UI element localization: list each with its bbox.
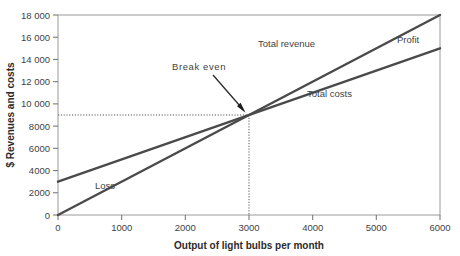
total-revenue-label: Total revenue — [258, 38, 315, 49]
profit-region-label: Profit — [397, 34, 420, 45]
total-costs-label: Total costs — [307, 88, 352, 99]
y-tick-label-2000: 2000 — [29, 187, 50, 198]
x-tick-label-1000: 1000 — [111, 222, 132, 233]
y-tick-label-8000: 8000 — [29, 121, 50, 132]
y-tick-label-4000: 4000 — [29, 165, 50, 176]
x-tick-label-6000: 6000 — [429, 222, 450, 233]
x-tick-label-2000: 2000 — [175, 222, 196, 233]
x-tick-label-3000: 3000 — [238, 222, 259, 233]
y-tick-label-14000: 14 000 — [21, 54, 50, 65]
x-axis-ticks — [58, 215, 440, 220]
total-costs-line — [58, 48, 440, 181]
break-even-chart: 18 000 16 000 14 000 12 000 10 000 8000 … — [0, 0, 460, 256]
break-even-label: Break even — [172, 61, 226, 72]
y-tick-label-16000: 16 000 — [21, 32, 50, 43]
x-axis-title: Output of light bulbs per month — [174, 240, 324, 251]
y-axis-ticks — [53, 15, 58, 215]
chart-canvas: 18 000 16 000 14 000 12 000 10 000 8000 … — [0, 0, 460, 256]
y-axis-title: $ Revenues and costs — [5, 62, 16, 167]
y-tick-label-0: 0 — [45, 210, 50, 221]
y-tick-label-10000: 10 000 — [21, 98, 50, 109]
y-tick-label-18000: 18 000 — [21, 10, 50, 21]
loss-region-label: Loss — [95, 180, 115, 191]
y-tick-label-6000: 6000 — [29, 143, 50, 154]
x-tick-label-4000: 4000 — [302, 222, 323, 233]
break-even-arrow-icon — [213, 75, 246, 113]
x-tick-label-5000: 5000 — [366, 222, 387, 233]
x-tick-label-0: 0 — [55, 222, 60, 233]
y-tick-label-12000: 12 000 — [21, 76, 50, 87]
